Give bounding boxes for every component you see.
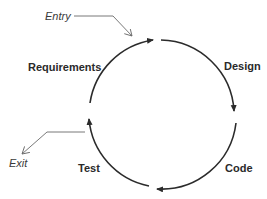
arc-design-to-code [161, 40, 234, 111]
stage-label-code: Code [225, 162, 253, 174]
entry-pointer-arrow [74, 16, 132, 36]
stage-label-design: Design [224, 60, 261, 72]
exit-pointer-arrow [22, 132, 85, 154]
stage-label-requirements: Requirements [28, 61, 101, 73]
arc-code-to-test [157, 123, 236, 189]
lifecycle-diagram: Requirements Design Code Test Entry Exit [0, 0, 267, 199]
exit-label: Exit [9, 157, 28, 169]
entry-label: Entry [45, 10, 72, 22]
stage-label-test: Test [78, 162, 100, 174]
arc-test-to-requirements [89, 119, 149, 186]
